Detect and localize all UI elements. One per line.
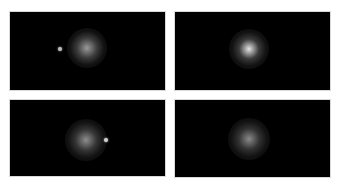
image-panel-bottom-left xyxy=(10,100,165,176)
image-panel-top-right xyxy=(175,12,330,90)
point-source xyxy=(58,47,62,51)
image-panel-top-left xyxy=(10,12,165,90)
glow-blob xyxy=(67,28,107,68)
glow-blob xyxy=(65,119,107,161)
image-panel-bottom-right xyxy=(175,100,330,177)
point-source xyxy=(104,138,108,142)
glow-blob xyxy=(228,118,270,160)
glow-blob xyxy=(229,29,269,69)
